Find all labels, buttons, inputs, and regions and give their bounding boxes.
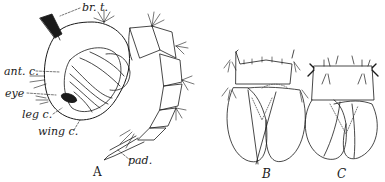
label-leg-case: leg c. <box>22 109 52 120</box>
line-drawing <box>0 0 385 182</box>
label-antenna-case: ant. c. <box>4 66 39 77</box>
panel-label-b: B <box>262 168 271 180</box>
paddle-view-b-drawing <box>222 50 308 164</box>
label-paddle: pad. <box>128 155 152 166</box>
panel-label-a: A <box>93 166 102 178</box>
mosquito-pupa-figure: br. t. ant. c. eye leg c. wing c. pad. A… <box>0 0 385 182</box>
label-eye: eye <box>5 88 24 99</box>
paddle-view-c-drawing <box>305 56 378 159</box>
panel-label-c: C <box>337 168 346 180</box>
label-breathing-trumpet: br. t. <box>82 2 108 13</box>
label-wing-case: wing c. <box>38 126 78 137</box>
